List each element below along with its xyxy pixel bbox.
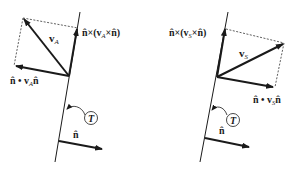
tangential-component-label: n̂×(vS×n̂) bbox=[169, 27, 206, 39]
dashed-guide-top bbox=[226, 29, 284, 43]
velocity-vector-label: vA bbox=[49, 32, 60, 46]
unit-normal-arrow bbox=[59, 141, 102, 149]
velocity-vector-label: vS bbox=[239, 47, 249, 61]
tangential-component-label: n̂×(vA×n̂) bbox=[82, 27, 120, 39]
tangential-component-arrow bbox=[69, 29, 77, 76]
normal-component-label: n̂ • vSn̂ bbox=[253, 94, 281, 106]
surface-pointer-arrow bbox=[67, 106, 85, 115]
tangential-component-arrow bbox=[217, 29, 225, 77]
dashed-guide-side bbox=[275, 43, 284, 87]
surface-label: T bbox=[230, 115, 237, 126]
surface-pointer-arrow bbox=[212, 107, 227, 115]
left-panel: vA n̂×(vA×n̂) n̂ • vAn̂ T n̂ bbox=[10, 12, 120, 162]
normal-component-arrow bbox=[217, 77, 273, 87]
surface-label: T bbox=[88, 113, 95, 124]
unit-normal-label: n̂ bbox=[73, 129, 79, 140]
dashed-guide-top bbox=[23, 18, 78, 28]
vector-decomposition-diagram: vA n̂×(vA×n̂) n̂ • vAn̂ T n̂ vS n̂×(vS×n… bbox=[0, 0, 298, 171]
normal-component-label: n̂ • vAn̂ bbox=[10, 75, 39, 87]
dashed-guide-side bbox=[14, 18, 23, 66]
unit-normal-arrow bbox=[205, 138, 249, 147]
right-panel: vS n̂×(vS×n̂) n̂ • vSn̂ T n̂ bbox=[169, 12, 284, 162]
velocity-vector-arrow bbox=[217, 44, 283, 77]
velocity-vector-arrow bbox=[24, 19, 69, 76]
unit-normal-label: n̂ bbox=[219, 125, 225, 136]
